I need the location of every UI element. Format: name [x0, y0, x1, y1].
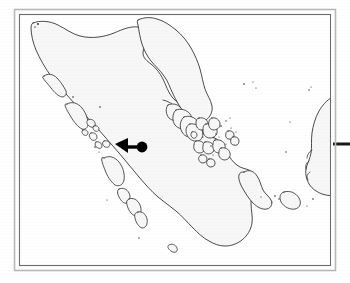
map-canvas: [0, 0, 350, 283]
marker-dot: [137, 142, 148, 153]
map-content: [20, 15, 346, 265]
locator-map-figure: [0, 0, 350, 283]
